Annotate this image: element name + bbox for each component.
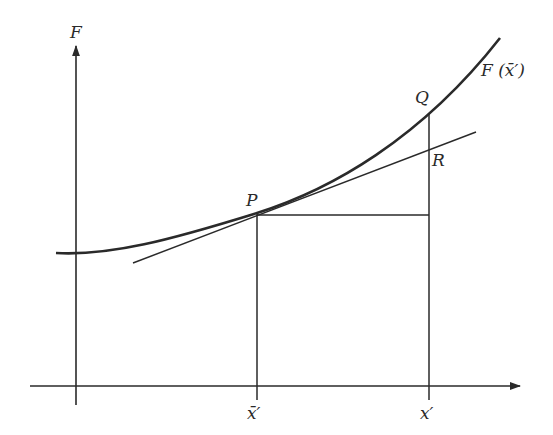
y-axis-label: F xyxy=(69,22,83,42)
curve-label: F (x̄′) xyxy=(480,60,525,80)
convex-function-tangent-diagram: F P Q R F (x̄′) x̄′ x′ xyxy=(0,0,553,435)
x-bar-tick-label: x̄′ xyxy=(247,403,261,423)
x-tick-label: x′ xyxy=(420,403,434,423)
point-P-label: P xyxy=(245,190,258,210)
function-curve xyxy=(56,38,500,253)
point-Q-label: Q xyxy=(415,87,429,107)
point-R-label: R xyxy=(431,150,445,170)
tangent-line xyxy=(133,132,476,263)
